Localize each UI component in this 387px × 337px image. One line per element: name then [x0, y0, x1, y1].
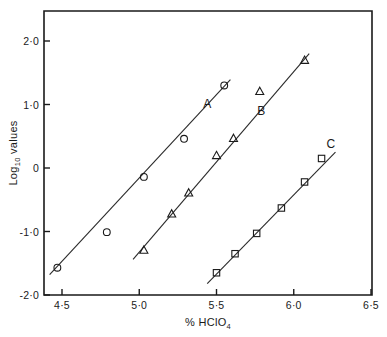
data-point-circle — [221, 82, 228, 89]
data-point-square — [318, 155, 324, 161]
series-label-c: C — [326, 137, 335, 151]
data-point-square — [213, 270, 219, 276]
data-point-circle — [181, 135, 188, 142]
x-tick-label: 6·5 — [363, 299, 379, 311]
data-point-circle — [54, 264, 61, 271]
y-axis-title-text: Log — [7, 166, 19, 185]
y-axis-tick-labels: 2·01·00-1·0-2·0 — [20, 35, 39, 301]
data-point-square — [232, 251, 238, 257]
data-point-circle — [140, 173, 147, 180]
data-point-circle — [103, 229, 110, 236]
data-series-group — [50, 54, 336, 284]
x-axis-title: % HClO4 — [185, 316, 231, 331]
y-tick-label: 2·0 — [23, 35, 39, 47]
data-point-triangle — [213, 151, 221, 158]
x-axis-tick-labels: 4·55·05·56·06·5 — [54, 299, 379, 311]
y-axis-ticks — [44, 41, 50, 295]
svg-text:% HClO4: % HClO4 — [185, 316, 231, 331]
y-axis-title-suffix: values — [7, 120, 19, 157]
series-labels-group: ABC — [203, 97, 335, 151]
y-axis-title-subscript: 10 — [13, 157, 22, 166]
series-trend-line — [207, 152, 335, 283]
x-tick-label: 5·5 — [209, 299, 225, 311]
data-point-triangle — [229, 134, 237, 141]
series-label-a: A — [203, 97, 211, 111]
data-point-triangle — [256, 87, 264, 94]
x-axis-title-text: % HClO — [185, 316, 227, 328]
svg-text:Log10 values: Log10 values — [7, 120, 22, 185]
y-axis-title: Log10 values — [7, 120, 22, 185]
plot-frame — [44, 11, 372, 295]
x-axis-ticks — [62, 289, 371, 295]
y-tick-label: -2·0 — [20, 289, 39, 301]
y-tick-label: 1·0 — [23, 99, 39, 111]
y-tick-label: 0 — [33, 162, 39, 174]
x-tick-label: 5·0 — [131, 299, 147, 311]
x-tick-label: 4·5 — [54, 299, 70, 311]
y-tick-label: -1·0 — [20, 226, 39, 238]
x-tick-label: 6·0 — [286, 299, 302, 311]
chart-figure: 4·55·05·56·06·5 2·01·00-1·0-2·0 ABC % HC… — [0, 0, 387, 337]
series-label-b: B — [257, 104, 265, 118]
series-c — [207, 152, 335, 283]
x-axis-title-subscript: 4 — [227, 322, 231, 331]
scatter-plot: 4·55·05·56·06·5 2·01·00-1·0-2·0 ABC % HC… — [0, 0, 387, 337]
